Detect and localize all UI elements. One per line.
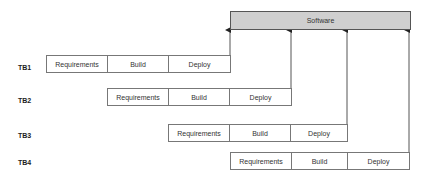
phase-deploy: Deploy — [169, 55, 231, 73]
phase-build: Build — [230, 124, 291, 142]
phase-requirements: Requirements — [46, 55, 108, 73]
phase-deploy: Deploy — [230, 88, 292, 106]
timeline-row-tb2: Requirements Build Deploy — [107, 88, 292, 106]
phase-requirements: Requirements — [230, 152, 292, 170]
row-label-tb3: TB3 — [18, 132, 31, 139]
row-label-tb1: TB1 — [18, 64, 31, 71]
phase-requirements: Requirements — [168, 124, 230, 142]
software-box: Software — [230, 11, 411, 30]
timeline-row-tb3: Requirements Build Deploy — [168, 124, 348, 142]
phase-build: Build — [292, 152, 348, 170]
phase-deploy: Deploy — [348, 152, 410, 170]
phase-build: Build — [169, 88, 230, 106]
row-label-tb4: TB4 — [18, 159, 31, 166]
phase-deploy: Deploy — [291, 124, 348, 142]
software-label: Software — [307, 17, 335, 24]
phase-build: Build — [108, 55, 169, 73]
timeline-row-tb1: Requirements Build Deploy — [46, 55, 231, 73]
timeline-row-tb4: Requirements Build Deploy — [230, 152, 410, 170]
row-label-tb2: TB2 — [18, 97, 31, 104]
phase-requirements: Requirements — [107, 88, 169, 106]
